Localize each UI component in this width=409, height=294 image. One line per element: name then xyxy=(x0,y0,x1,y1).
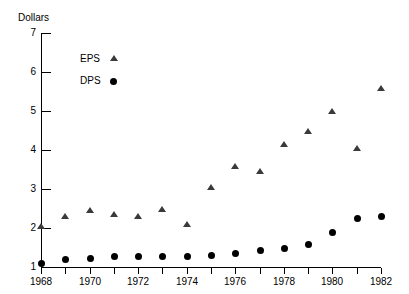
data-point-eps-1969 xyxy=(61,213,69,219)
x-tick-1976 xyxy=(235,268,236,274)
x-tick-1979 xyxy=(308,268,309,274)
data-point-eps-1975 xyxy=(207,184,215,190)
x-tick-1972 xyxy=(138,268,139,274)
y-tick-7 xyxy=(42,33,51,34)
y-tick-4 xyxy=(42,150,51,151)
data-point-eps-1973 xyxy=(158,206,166,212)
data-point-dps-1974 xyxy=(184,253,191,260)
data-point-dps-1971 xyxy=(111,253,118,260)
y-axis-title: Dollars xyxy=(18,12,49,23)
legend-label-eps: EPS xyxy=(80,54,100,64)
circle-marker-icon xyxy=(110,78,117,85)
y-tick-6 xyxy=(42,72,51,73)
data-point-dps-1968 xyxy=(38,260,45,267)
scatter-chart: Dollars 7654321 196819701972197419761978… xyxy=(0,0,409,294)
x-tick-1980 xyxy=(332,268,333,274)
data-point-dps-1969 xyxy=(62,256,69,263)
x-tick-1971 xyxy=(114,268,115,274)
x-tick-1968 xyxy=(41,268,42,274)
data-point-dps-1981 xyxy=(354,215,361,222)
data-point-eps-1970 xyxy=(86,207,94,213)
x-tick-label-1970: 1970 xyxy=(70,277,110,287)
data-point-dps-1975 xyxy=(208,252,215,259)
x-tick-label-1980: 1980 xyxy=(312,277,352,287)
data-point-dps-1978 xyxy=(281,245,288,252)
x-tick-1974 xyxy=(187,268,188,274)
y-tick-label-6: 6 xyxy=(18,67,36,77)
data-point-dps-1979 xyxy=(305,241,312,248)
data-point-eps-1979 xyxy=(304,128,312,134)
y-tick-label-3: 3 xyxy=(18,184,36,194)
triangle-marker-icon xyxy=(110,55,118,61)
legend-label-dps: DPS xyxy=(80,76,101,86)
x-tick-label-1972: 1972 xyxy=(118,277,158,287)
data-point-eps-1980 xyxy=(328,108,336,114)
data-point-eps-1974 xyxy=(183,221,191,227)
x-tick-label-1978: 1978 xyxy=(264,277,304,287)
data-point-dps-1970 xyxy=(87,255,94,262)
x-tick-label-1974: 1974 xyxy=(167,277,207,287)
y-tick-label-5: 5 xyxy=(18,106,36,116)
x-tick-1978 xyxy=(284,268,285,274)
data-point-eps-1981 xyxy=(353,145,361,151)
data-point-dps-1973 xyxy=(159,253,166,260)
data-point-dps-1982 xyxy=(378,213,385,220)
data-point-dps-1980 xyxy=(329,229,336,236)
x-tick-1969 xyxy=(65,268,66,274)
x-tick-1982 xyxy=(381,268,382,274)
data-point-eps-1978 xyxy=(280,141,288,147)
x-tick-label-1982: 1982 xyxy=(361,277,401,287)
x-tick-1981 xyxy=(357,268,358,274)
x-tick-1973 xyxy=(162,268,163,274)
data-point-eps-1976 xyxy=(231,163,239,169)
data-point-dps-1976 xyxy=(232,250,239,257)
data-point-eps-1982 xyxy=(377,85,385,91)
y-tick-3 xyxy=(42,189,51,190)
data-point-eps-1977 xyxy=(256,168,264,174)
y-tick-label-4: 4 xyxy=(18,145,36,155)
x-tick-1977 xyxy=(260,268,261,274)
data-point-dps-1972 xyxy=(135,253,142,260)
y-tick-5 xyxy=(42,111,51,112)
x-tick-label-1968: 1968 xyxy=(21,277,61,287)
data-point-eps-1968 xyxy=(37,223,45,229)
y-tick-1 xyxy=(42,267,51,268)
y-tick-label-2: 2 xyxy=(18,223,36,233)
data-point-eps-1972 xyxy=(134,213,142,219)
y-tick-label-7: 7 xyxy=(18,28,36,38)
x-tick-1970 xyxy=(90,268,91,274)
y-tick-label-1: 1 xyxy=(18,262,36,272)
x-tick-1975 xyxy=(211,268,212,274)
data-point-eps-1971 xyxy=(110,211,118,217)
x-tick-label-1976: 1976 xyxy=(215,277,255,287)
data-point-dps-1977 xyxy=(257,247,264,254)
